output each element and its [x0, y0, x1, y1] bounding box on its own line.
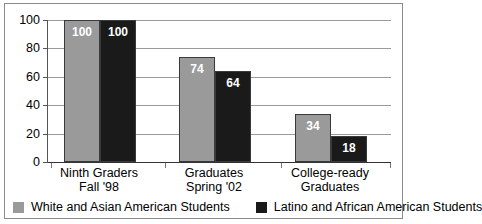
y-tick-mark — [43, 77, 48, 78]
bar: 64 — [215, 71, 251, 162]
legend-item-latino-african: Latino and African American Students — [256, 201, 482, 214]
black-swatch-icon — [256, 202, 267, 213]
y-axis-tick-label: 60 — [26, 71, 40, 84]
bar-value-label: 100 — [101, 26, 135, 38]
y-axis-tick-label: 80 — [26, 42, 40, 55]
bar: 34 — [295, 114, 331, 162]
chart-legend: White and Asian American Students Latino… — [9, 198, 400, 216]
x-axis-separator-tick — [281, 163, 282, 168]
y-axis-tick-label: 100 — [19, 14, 40, 27]
y-tick-mark — [43, 20, 48, 21]
legend-label: White and Asian American Students — [31, 201, 230, 214]
bar-value-label: 18 — [332, 142, 366, 154]
x-axis-tick-label-line: College-ready — [260, 166, 400, 180]
legend-label: Latino and African American Students — [274, 201, 482, 214]
bar: 100 — [100, 20, 136, 162]
legend-item-white-asian: White and Asian American Students — [13, 201, 230, 214]
y-axis-tick-label: 40 — [26, 99, 40, 112]
x-axis-tick-label-line: Graduates — [260, 180, 400, 194]
bar: 18 — [331, 136, 367, 162]
chart-figure: 020406080100 10010074643418 Ninth Grader… — [4, 3, 403, 219]
bar-value-label: 74 — [180, 63, 214, 75]
x-axis-separator-tick — [51, 163, 52, 168]
bar-value-label: 34 — [296, 120, 330, 132]
bar-group: 7464 — [179, 20, 251, 162]
x-axis-separator-tick — [165, 163, 166, 168]
bar: 100 — [64, 20, 100, 162]
bar-group: 3418 — [295, 20, 367, 162]
bar-group: 100100 — [64, 20, 136, 162]
x-axis-separator-tick — [390, 163, 391, 168]
y-tick-mark — [43, 162, 48, 163]
bar-value-label: 64 — [216, 77, 250, 89]
y-axis-tick-label: 20 — [26, 127, 40, 140]
y-tick-mark — [43, 105, 48, 106]
y-tick-mark — [43, 48, 48, 49]
y-tick-mark — [43, 134, 48, 135]
bar: 74 — [179, 57, 215, 162]
gray-swatch-icon — [13, 202, 24, 213]
plot-area: 020406080100 10010074643418 — [47, 20, 391, 163]
x-axis-tick-label: College-readyGraduates — [260, 166, 400, 194]
bar-value-label: 100 — [65, 26, 99, 38]
